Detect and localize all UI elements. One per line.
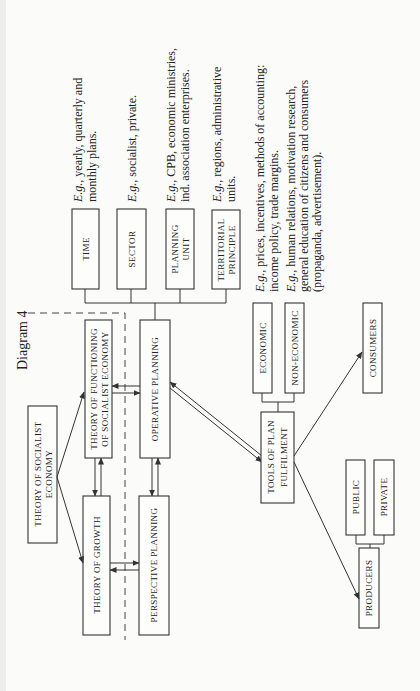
svg-text:ind. association enterprises.: ind. association enterprises. — [178, 69, 192, 202]
box-tools-plan-fulfilment: TOOLS OF PLAN FULFILMENT — [261, 412, 294, 503]
svg-text:ECONOMY: ECONOMY — [44, 450, 54, 498]
svg-text:general education of citizens: general education of citizens and consum… — [297, 79, 311, 292]
svg-text:units.: units. — [224, 176, 238, 202]
svg-text:PRIVATE: PRIVATE — [379, 478, 389, 517]
note-economic: E.g., prices, incentives, methods of acc… — [253, 65, 281, 293]
box-non-economic: NON-ECONOMIC — [285, 303, 304, 393]
svg-text:ECONOMIC: ECONOMIC — [258, 322, 268, 373]
box-territorial-principle: TERRITORIAL PRINCIPLE — [212, 210, 240, 289]
svg-text:TIME: TIME — [81, 237, 91, 261]
box-producers: PRODUCERS — [359, 548, 379, 628]
diagram-title: Diagram 4 — [15, 311, 30, 370]
diagram-canvas: Diagram 4 TIME SECTOR PLANNING UNIT TERR… — [0, 0, 420, 691]
box-theory-functioning: THEORY OF FUNCTIONING OF SOCIALIST ECONO… — [85, 320, 112, 458]
box-private: PRIVATE — [374, 460, 394, 535]
svg-text:SECTOR: SECTOR — [127, 231, 137, 268]
svg-text:FULFILMENT: FULFILMENT — [279, 427, 289, 487]
svg-text:E.g., CPB, economic ministries: E.g., CPB, economic ministries, — [164, 48, 178, 203]
connector-tools — [262, 393, 294, 412]
note-time: E.g., yearly, quarterly and monthly plan… — [71, 78, 99, 203]
svg-text:PRINCIPLE: PRINCIPLE — [227, 225, 237, 274]
svg-text:CONSUMERS: CONSUMERS — [368, 319, 378, 378]
svg-text:E.g., regions, administrative: E.g., regions, administrative — [210, 67, 224, 203]
svg-text:OF SOCIALIST ECONOMY: OF SOCIALIST ECONOMY — [100, 331, 110, 446]
box-theory-socialist-economy: THEORY OF SOCIALIST ECONOMY — [28, 406, 57, 543]
svg-text:(propaganda, advertisement).: (propaganda, advertisement). — [310, 152, 324, 292]
box-sector: SECTOR — [117, 209, 146, 289]
box-public: PUBLIC — [346, 460, 365, 535]
connector-planning-dimensions — [85, 289, 226, 320]
note-sector: E.g., socialist, private. — [125, 95, 139, 203]
svg-text:OPERATIVE PLANNING: OPERATIVE PLANNING — [150, 337, 160, 442]
svg-text:income policy, trade margins.: income policy, trade margins. — [267, 150, 281, 292]
svg-text:UNIT: UNIT — [181, 237, 191, 260]
svg-text:E.g., human relations, motivat: E.g., human relations, motivation resear… — [284, 86, 298, 293]
connector-producers — [356, 535, 384, 548]
svg-text:E.g., prices, incentives, meth: E.g., prices, incentives, methods of acc… — [253, 65, 267, 293]
svg-text:TOOLS OF PLAN: TOOLS OF PLAN — [266, 420, 276, 494]
box-planning-unit: PLANNING UNIT — [166, 209, 194, 289]
svg-text:THEORY OF GROWTH: THEORY OF GROWTH — [92, 516, 102, 614]
svg-text:PERSPECTIVE PLANNING: PERSPECTIVE PLANNING — [149, 508, 159, 623]
svg-text:PRODUCERS: PRODUCERS — [364, 560, 374, 617]
svg-text:PUBLIC: PUBLIC — [351, 480, 361, 514]
svg-text:PLANNING: PLANNING — [170, 224, 180, 273]
svg-text:E.g., socialist, private.: E.g., socialist, private. — [125, 95, 139, 203]
svg-text:THEORY OF FUNCTIONING: THEORY OF FUNCTIONING — [89, 328, 99, 450]
svg-text:TERRITORIAL: TERRITORIAL — [216, 218, 226, 281]
svg-text:monthly plans.: monthly plans. — [85, 131, 99, 202]
note-non-economic: E.g., human relations, motivation resear… — [284, 79, 324, 293]
book-page: Diagram 4 TIME SECTOR PLANNING UNIT TERR… — [0, 0, 420, 691]
box-consumers: CONSUMERS — [363, 303, 382, 393]
note-territorial: E.g., regions, administrative units. — [210, 67, 238, 203]
svg-text:E.g., yearly, quarterly and: E.g., yearly, quarterly and — [71, 78, 85, 203]
svg-text:THEORY OF SOCIALIST: THEORY OF SOCIALIST — [33, 421, 43, 526]
box-time: TIME — [72, 209, 99, 289]
svg-text:NON-ECONOMIC: NON-ECONOMIC — [290, 310, 300, 385]
box-operative-planning: OPERATIVE PLANNING — [140, 320, 170, 458]
box-perspective-planning: PERSPECTIVE PLANNING — [139, 496, 169, 635]
box-economic: ECONOMIC — [253, 303, 272, 393]
box-theory-growth: THEORY OF GROWTH — [83, 496, 110, 635]
note-planning-unit: E.g., CPB, economic ministries, ind. ass… — [164, 48, 192, 203]
